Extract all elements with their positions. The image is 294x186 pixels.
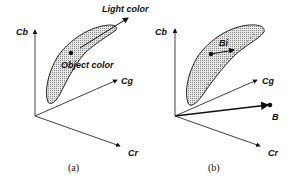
cb-label-a: Cb [16,27,28,37]
light-color-label: Light color [102,4,149,14]
b-label: B [272,112,279,122]
diagram-canvas: Cb Cg Cr Light color Object color (a) Cb… [0,0,294,186]
cr-label-a: Cr [128,148,138,158]
object-color-point [69,51,73,55]
bi-label: Bi [219,38,228,48]
cb-label-b: Cb [155,27,167,37]
b-point [268,103,273,108]
bi-point [209,52,213,56]
cr-label-b: Cr [268,148,278,158]
caption-a: (a) [68,162,79,174]
cg-label-a: Cg [121,76,133,86]
object-color-label: Object color [61,60,114,70]
panel-a: Cb Cg Cr Light color Object color (a) [16,4,149,174]
panel-b: Cb Cg Cr Bi B (b) [155,25,279,174]
caption-b: (b) [208,162,220,174]
b-vector [175,105,268,116]
cg-label-b: Cg [262,76,274,86]
cr-axis-a [35,116,120,146]
cr-axis-b [175,116,260,146]
color-region-b [186,25,264,105]
